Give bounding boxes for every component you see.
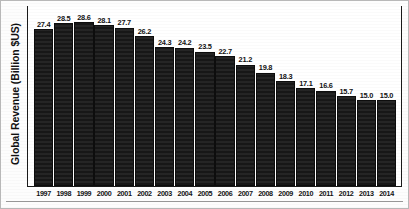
bar-value-label: 15.0 xyxy=(380,92,393,100)
bar-value-label: 15.0 xyxy=(360,92,373,100)
bar-value-label: 15.7 xyxy=(339,88,352,96)
bar-slot: 28.1 xyxy=(94,6,113,186)
x-axis-tick-label: 2004 xyxy=(175,189,194,203)
bar-value-label: 19.8 xyxy=(259,64,272,72)
x-axis-tick-label: 2009 xyxy=(276,189,295,203)
x-axis-tick-label: 2000 xyxy=(94,189,113,203)
bar-value-label: 21.2 xyxy=(239,56,252,64)
bar-slot: 26.2 xyxy=(135,6,154,186)
bar-value-label: 27.4 xyxy=(37,21,50,29)
bar xyxy=(256,73,275,186)
bar xyxy=(155,47,174,186)
bar xyxy=(74,22,93,185)
bar-slot: 15.0 xyxy=(357,6,376,186)
x-axis-tick-label: 2011 xyxy=(316,189,335,203)
x-axis-tick-label: 2006 xyxy=(215,189,234,203)
bar-value-label: 17.1 xyxy=(299,80,312,88)
bar-slot: 24.2 xyxy=(175,6,194,186)
bar-slot: 19.8 xyxy=(256,6,275,186)
bar-chart-figure: Global Revenue (Billion $US) 27.428.528.… xyxy=(0,0,409,209)
bar xyxy=(296,88,315,185)
x-axis-tick-label: 2012 xyxy=(337,189,356,203)
bar-slot: 28.6 xyxy=(74,6,93,186)
bar-value-label: 22.7 xyxy=(218,48,231,56)
bar xyxy=(337,96,356,185)
x-axis-tick-label: 2008 xyxy=(256,189,275,203)
bar-value-label: 24.2 xyxy=(178,39,191,47)
x-axis-tick-label: 2002 xyxy=(135,189,154,203)
x-axis-tick-label: 2010 xyxy=(296,189,315,203)
y-axis-title: Global Revenue (Billion $US) xyxy=(9,23,21,165)
bar-value-label: 28.1 xyxy=(97,17,110,25)
bar-value-label: 28.5 xyxy=(57,15,70,23)
x-axis-tick-label: 2005 xyxy=(195,189,214,203)
bar-value-label: 24.3 xyxy=(158,39,171,47)
bar-slot: 23.5 xyxy=(195,6,214,186)
bar xyxy=(316,91,335,186)
bar xyxy=(215,56,234,185)
bar xyxy=(195,52,214,186)
bar-value-label: 26.2 xyxy=(138,28,151,36)
x-axis-tick-label: 2003 xyxy=(155,189,174,203)
bar-slot: 22.7 xyxy=(215,6,234,186)
bar xyxy=(54,23,73,185)
bar-slot: 28.5 xyxy=(54,6,73,186)
y-axis-title-container: Global Revenue (Billion $US) xyxy=(4,1,26,187)
bar-value-label: 28.6 xyxy=(77,14,90,22)
bar xyxy=(357,100,376,186)
x-axis-tick-label: 2013 xyxy=(357,189,376,203)
bar-slot: 18.3 xyxy=(276,6,295,186)
x-axis-tick-labels: 1997199819992000200120022003200420052006… xyxy=(29,189,401,203)
x-axis-tick-label: 1998 xyxy=(54,189,73,203)
bar-slot: 21.2 xyxy=(236,6,255,186)
bar xyxy=(377,100,396,186)
x-axis-tick-label: 2007 xyxy=(236,189,255,203)
bar-slot: 27.4 xyxy=(34,6,53,186)
bars-container: 27.428.528.628.127.726.224.324.223.522.7… xyxy=(29,6,401,186)
bar xyxy=(276,81,295,185)
x-axis-tick-label: 1999 xyxy=(74,189,93,203)
bar-value-label: 23.5 xyxy=(198,43,211,51)
bar-slot: 15.7 xyxy=(337,6,356,186)
bar xyxy=(94,25,113,185)
bar xyxy=(135,36,154,185)
bar-value-label: 18.3 xyxy=(279,73,292,81)
bar xyxy=(115,28,134,186)
x-axis-tick-label: 2001 xyxy=(115,189,134,203)
bar-value-label: 16.6 xyxy=(319,82,332,90)
bar-value-label: 27.7 xyxy=(118,19,131,27)
bar-slot: 24.3 xyxy=(155,6,174,186)
bar-slot: 17.1 xyxy=(296,6,315,186)
bar xyxy=(236,65,255,186)
x-axis-tick-label: 1997 xyxy=(34,189,53,203)
bar-slot: 15.0 xyxy=(377,6,396,186)
bar xyxy=(34,29,53,185)
x-axis-tick-label: 2014 xyxy=(377,189,396,203)
bar-slot: 16.6 xyxy=(316,6,335,186)
bar-slot: 27.7 xyxy=(115,6,134,186)
bar xyxy=(175,48,194,186)
